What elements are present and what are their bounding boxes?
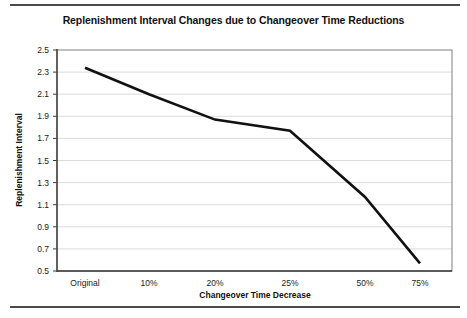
x-category-label: 75% <box>411 278 428 288</box>
y-tick-label: 1.9 <box>37 111 49 121</box>
x-axis-title: Changeover Time Decrease <box>199 290 311 300</box>
x-category-label: Original <box>70 278 99 288</box>
x-category-label: 25% <box>281 278 298 288</box>
x-category-label: 10% <box>140 278 157 288</box>
y-tick-label: 0.9 <box>37 222 49 232</box>
y-tick-label: 1.5 <box>37 156 49 166</box>
y-tick-label: 1.7 <box>37 133 49 143</box>
y-tick-label: 1.1 <box>37 200 49 210</box>
gridline-group <box>57 72 452 249</box>
y-axis-title: Replenishment Interval <box>14 113 24 207</box>
y-tick-label: 1.3 <box>37 178 49 188</box>
chart-figure: Replenishment Interval Changes due to Ch… <box>0 0 467 318</box>
y-tick-label: 2.3 <box>37 67 49 77</box>
line-chart-plot: 0.50.70.91.11.31.51.71.92.12.32.5 Origin… <box>0 0 467 318</box>
x-category-label: 50% <box>356 278 373 288</box>
y-tick-label: 0.7 <box>37 244 49 254</box>
y-tick-label-group: 0.50.70.91.11.31.51.71.92.12.32.5 <box>37 45 49 276</box>
y-tick-label: 2.1 <box>37 89 49 99</box>
data-series-line <box>85 68 420 264</box>
x-category-label: 20% <box>206 278 223 288</box>
x-category-label-group: Original10%20%25%50%75% <box>70 278 429 288</box>
y-tick-label: 2.5 <box>37 45 49 55</box>
y-tick-label: 0.5 <box>37 266 49 276</box>
